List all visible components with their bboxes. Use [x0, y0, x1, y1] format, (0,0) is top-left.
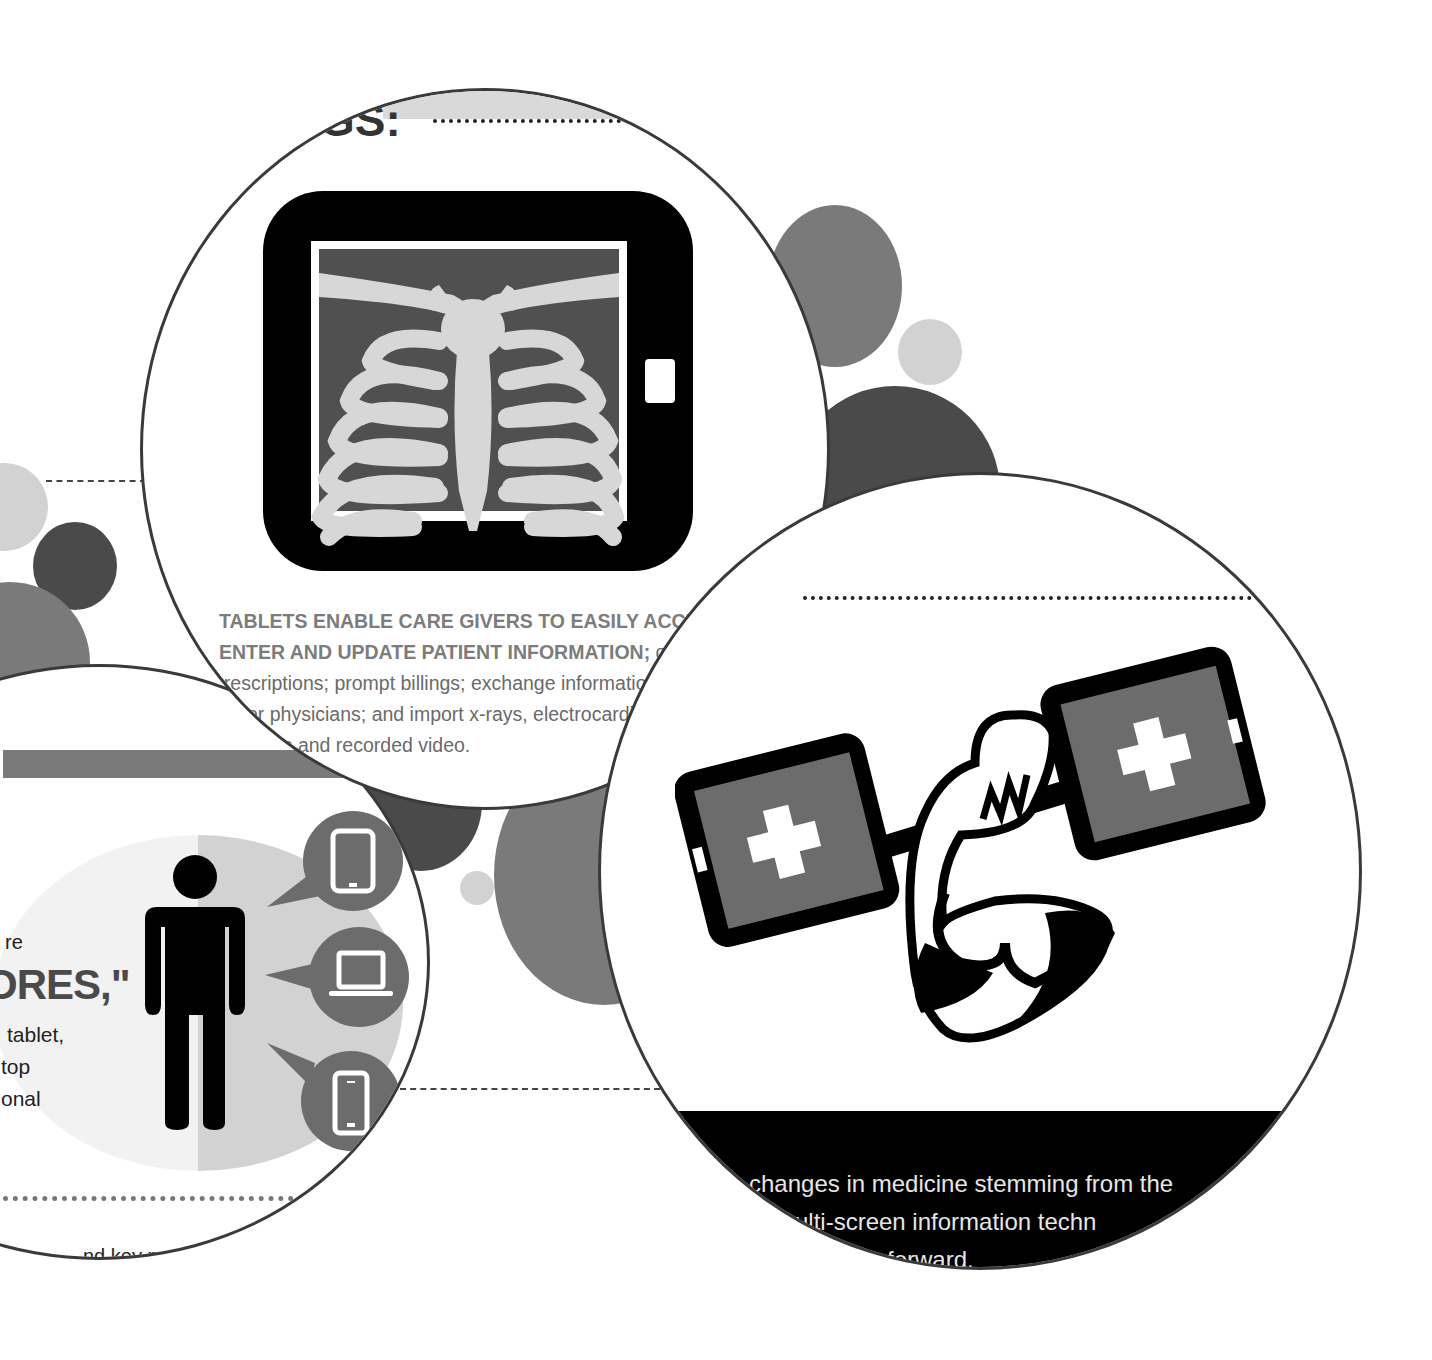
section-heading-fragment: GS: [319, 97, 401, 143]
dotted-divider [433, 119, 733, 123]
footer-text-line: forward. [887, 1241, 1309, 1270]
dotted-divider [3, 1196, 323, 1201]
left-text-line: onal [1, 1087, 41, 1111]
footer-text-line: multi-screen information techn [775, 1203, 1309, 1241]
left-text-line: tablet, [7, 1023, 64, 1047]
section-header-bar [383, 91, 743, 119]
right-magnifier-lens: changes in medicine stemming from the mu… [598, 472, 1362, 1270]
left-text-line: top [1, 1055, 30, 1079]
left-text-headline: ORES," [0, 961, 130, 1009]
background-bubble-light [898, 319, 962, 385]
left-bottom-text-fragment: nd key pr [83, 1245, 165, 1260]
dashed-connector [46, 480, 146, 482]
arm-lifting-tablet-dumbbell-icon [675, 643, 1275, 1083]
left-text-line: re [5, 931, 23, 954]
background-bubble-light [0, 463, 48, 551]
person-icon [143, 855, 247, 1130]
dotted-divider [803, 596, 1362, 600]
laptop-bubble-icon [265, 923, 410, 1038]
footer-text-line: changes in medicine stemming from the [749, 1165, 1309, 1203]
tablet-bubble-icon [265, 803, 405, 923]
background-bubble-light [460, 871, 494, 905]
smartphone-bubble-icon [265, 1039, 405, 1154]
caption-bold-text: ENTER AND UPDATE PATIENT INFORMATION; [219, 641, 650, 663]
footer-text: changes in medicine stemming from the mu… [749, 1165, 1309, 1270]
